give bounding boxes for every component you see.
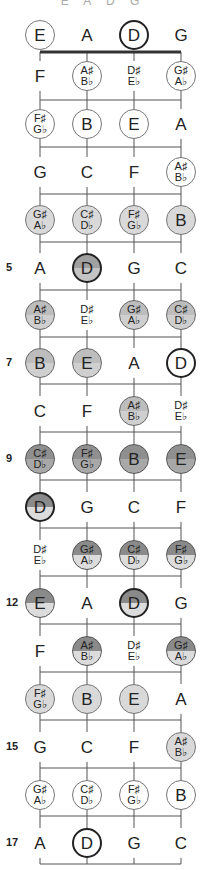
note-marker: G♯A♭	[119, 300, 149, 330]
note-label: A	[81, 27, 92, 44]
note-label: A	[175, 116, 186, 133]
note-marker: G	[166, 20, 196, 50]
note-label: D	[81, 835, 93, 852]
note-marker: E	[166, 444, 196, 474]
note-label: E♭	[81, 315, 93, 326]
note-marker: A	[166, 684, 196, 714]
note-marker: C	[25, 396, 55, 426]
note-marker: B	[72, 684, 102, 714]
note-marker: G	[72, 492, 102, 522]
note-marker: G	[166, 588, 196, 618]
note-marker: D♯E♭	[119, 636, 149, 666]
note-label: G♭	[174, 555, 188, 566]
note-marker: G♯A♭	[25, 780, 55, 810]
note-marker: F♯G♭	[25, 109, 55, 139]
note-label: B	[175, 212, 186, 229]
note-label: A♭	[34, 795, 46, 806]
note-marker: A♯B♭	[166, 732, 196, 762]
fret-number: 9	[6, 452, 20, 464]
note-marker: C♯D♭	[72, 205, 102, 235]
note-marker: F♯G♭	[166, 540, 196, 570]
note-label: B♭	[81, 76, 93, 87]
note-marker: G♯A♭	[72, 540, 102, 570]
note-marker: F♯G♭	[25, 684, 55, 714]
fret-number: 17	[6, 836, 20, 848]
note-label: A	[81, 595, 92, 612]
note-marker: A	[166, 109, 196, 139]
note-marker: F	[25, 636, 55, 666]
note-marker: D	[25, 492, 55, 522]
note-label: E♭	[128, 76, 140, 87]
note-marker: D♯E♭	[166, 396, 196, 426]
note-label: F	[35, 643, 45, 660]
note-label: E	[34, 27, 45, 44]
fret-number: 7	[6, 356, 20, 368]
note-marker: D	[119, 20, 149, 50]
note-marker: G♯A♭	[25, 205, 55, 235]
note-marker: A♯B♭	[119, 396, 149, 426]
note-marker: D	[72, 253, 102, 283]
note-label: C	[175, 260, 187, 277]
note-marker: E	[119, 684, 149, 714]
fret-number: 12	[6, 596, 20, 608]
note-label: F	[35, 68, 45, 85]
note-marker: F	[166, 492, 196, 522]
note-label: A♭	[128, 315, 140, 326]
note-label: B♭	[175, 172, 187, 183]
note-marker: G	[119, 828, 149, 858]
note-label: C	[81, 164, 93, 181]
note-marker: D♯E♭	[25, 540, 55, 570]
note-marker: A	[72, 588, 102, 618]
note-label: G	[33, 164, 46, 181]
note-label: G♭	[127, 220, 141, 231]
note-marker: E	[119, 109, 149, 139]
note-label: A♭	[81, 555, 93, 566]
note-label: D	[81, 260, 93, 277]
note-label: F	[176, 499, 186, 516]
note-marker: A	[25, 828, 55, 858]
note-marker: A	[25, 253, 55, 283]
note-label: F	[129, 739, 139, 756]
note-marker: G	[119, 253, 149, 283]
note-marker: F	[72, 396, 102, 426]
note-label: A	[175, 691, 186, 708]
note-marker: B	[166, 780, 196, 810]
note-label: G	[174, 595, 187, 612]
note-marker: C♯D♭	[119, 540, 149, 570]
note-label: E♭	[128, 651, 140, 662]
fret-number: 15	[6, 740, 20, 752]
note-marker: F	[119, 157, 149, 187]
note-label: D♭	[34, 459, 47, 470]
note-marker: B	[25, 348, 55, 378]
note-label: B	[81, 116, 92, 133]
note-label: C	[175, 835, 187, 852]
note-label: C	[81, 739, 93, 756]
note-marker: F	[25, 61, 55, 91]
note-marker: C♯D♭	[166, 300, 196, 330]
note-label: G	[174, 27, 187, 44]
note-marker: E	[25, 20, 55, 50]
note-marker: D	[166, 348, 196, 378]
note-label: F	[129, 164, 139, 181]
note-label: F	[82, 403, 92, 420]
note-marker: F♯G♭	[72, 444, 102, 474]
note-label: E	[175, 451, 186, 468]
note-label: G	[127, 260, 140, 277]
note-label: G	[33, 739, 46, 756]
fretboard-diagram: E A D G EADGFA♯B♭D♯E♭G♯A♭F♯G♭BEAGCFA♯B♭G…	[0, 0, 206, 870]
note-marker: A♯B♭	[166, 157, 196, 187]
note-label: D	[175, 355, 187, 372]
note-label: B♭	[128, 411, 140, 422]
note-label: E	[81, 355, 92, 372]
note-label: D♭	[81, 795, 94, 806]
note-marker: G	[25, 157, 55, 187]
note-label: G♭	[33, 124, 47, 135]
note-label: C	[34, 403, 46, 420]
note-marker: C	[166, 828, 196, 858]
note-label: D♭	[175, 315, 188, 326]
note-marker: F	[119, 732, 149, 762]
note-marker: C	[119, 492, 149, 522]
note-marker: A♯B♭	[72, 636, 102, 666]
note-label: B	[175, 787, 186, 804]
note-label: G♭	[127, 795, 141, 806]
